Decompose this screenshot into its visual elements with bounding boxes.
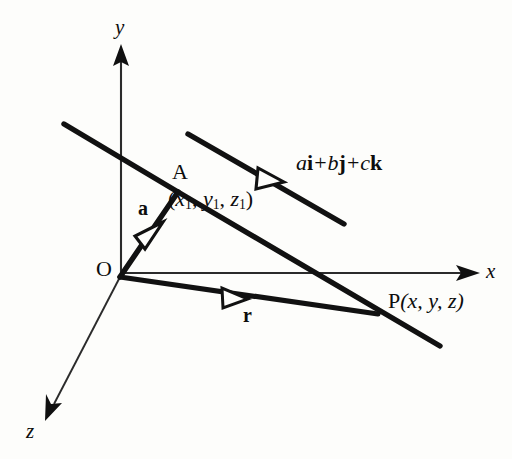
diagram-canvas [0,0,512,459]
origin-label: O [96,258,112,280]
vector-line-diagram: y x z O A (x1, y1, z1) P(x, y, z) a r ai… [0,0,512,459]
point-p-label: P(x, y, z) [388,290,464,312]
point-a-coordinates-label: (x1, y1, z1) [168,188,253,212]
coord-z: z [230,186,239,211]
direction-scalar-c: c [360,150,370,175]
coord-x: x [175,186,185,211]
z-axis-label: z [26,421,34,442]
coord-z-index: 1 [239,197,246,212]
direction-vector-label: ai+bj+ck [296,152,382,174]
axis-group [45,44,480,421]
direction-operator-5: + [346,150,360,175]
direction-unit-j: j [339,150,346,175]
direction-scalar-a: a [296,150,307,175]
x-axis-label: x [486,261,495,282]
direction-operator-2: + [313,150,327,175]
vector-r-label: r [243,305,252,325]
z-axis-line [54,277,120,404]
direction-unit-k: k [370,150,382,175]
point-a-label: A [172,161,188,183]
point-p-letter: P [388,288,400,313]
z-axis-arrowhead [45,394,62,421]
direction-scalar-b: b [328,150,339,175]
coord-y: y [203,186,213,211]
coord-x-index: 1 [185,197,192,212]
line-through-p-segment [178,192,440,346]
vector-a-label: a [138,198,148,218]
line-through-point-p [178,192,440,346]
y-axis-label: y [115,17,124,38]
point-p-coordinates: (x, y, z) [400,288,464,313]
